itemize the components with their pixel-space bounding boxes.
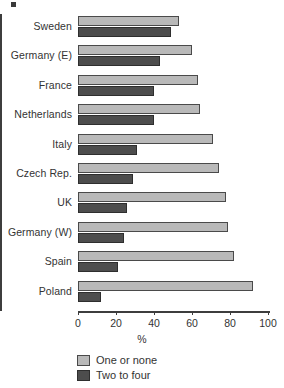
bar-poland-one-or-none xyxy=(78,281,253,291)
legend-swatch-light xyxy=(77,355,90,366)
bar-spain-two-to-four xyxy=(78,262,118,272)
y-axis-line xyxy=(0,14,2,311)
category-label-uk: UK xyxy=(57,197,72,208)
bar-netherlands-one-or-none xyxy=(78,104,200,114)
x-tick-60 xyxy=(192,311,193,315)
legend-swatch-dark xyxy=(77,370,90,381)
bar-netherlands-two-to-four xyxy=(78,115,154,125)
x-tick-label-20: 20 xyxy=(110,317,122,329)
bar-spain-one-or-none xyxy=(78,251,234,261)
bar-group xyxy=(78,222,268,243)
bar-uk-one-or-none xyxy=(78,192,226,202)
bar-chart: 020406080100 % One or none Two to four S… xyxy=(0,0,284,388)
bar-group xyxy=(78,163,268,184)
x-tick-20 xyxy=(116,311,117,315)
bar-group xyxy=(78,281,268,302)
x-tick-40 xyxy=(154,311,155,315)
bar-poland-two-to-four xyxy=(78,292,101,302)
category-label-italy: Italy xyxy=(52,139,72,150)
bar-czech-rep--one-or-none xyxy=(78,163,219,173)
bar-sweden-two-to-four xyxy=(78,27,171,37)
x-axis-line xyxy=(78,311,270,313)
legend-item-one-or-none: One or none xyxy=(77,353,157,367)
bar-germany-w--two-to-four xyxy=(78,233,124,243)
chart-legend: One or none Two to four xyxy=(77,353,157,383)
category-label-france: France xyxy=(39,80,72,91)
category-label-sweden: Sweden xyxy=(33,21,72,32)
x-tick-100 xyxy=(268,311,269,315)
bar-france-two-to-four xyxy=(78,86,154,96)
bar-group xyxy=(78,251,268,272)
bar-czech-rep--two-to-four xyxy=(78,174,133,184)
bar-group xyxy=(78,75,268,96)
legend-label-one-or-none: One or none xyxy=(96,354,157,366)
x-axis-title: % xyxy=(0,333,284,345)
scan-artifact xyxy=(11,2,16,7)
bar-group xyxy=(78,16,268,37)
x-tick-80 xyxy=(230,311,231,315)
legend-label-two-to-four: Two to four xyxy=(96,369,150,381)
x-tick-label-100: 100 xyxy=(259,317,277,329)
x-tick-label-60: 60 xyxy=(186,317,198,329)
bar-france-one-or-none xyxy=(78,75,198,85)
category-label-czech-rep-: Czech Rep. xyxy=(16,168,72,179)
x-tick-label-40: 40 xyxy=(148,317,160,329)
bar-italy-one-or-none xyxy=(78,134,213,144)
category-label-poland: Poland xyxy=(39,286,72,297)
bar-sweden-one-or-none xyxy=(78,16,179,26)
bar-germany-e--two-to-four xyxy=(78,56,160,66)
bar-uk-two-to-four xyxy=(78,203,127,213)
bar-group xyxy=(78,134,268,155)
x-tick-0 xyxy=(78,311,79,315)
bar-group xyxy=(78,45,268,66)
legend-item-two-to-four: Two to four xyxy=(77,368,157,382)
category-label-germany-e-: Germany (E) xyxy=(11,50,72,61)
category-label-netherlands: Netherlands xyxy=(14,109,72,120)
bar-germany-e--one-or-none xyxy=(78,45,192,55)
bar-italy-two-to-four xyxy=(78,145,137,155)
category-label-germany-w-: Germany (W) xyxy=(8,227,72,238)
plot-area xyxy=(78,14,268,311)
bar-group xyxy=(78,192,268,213)
bar-germany-w--one-or-none xyxy=(78,222,228,232)
x-tick-label-0: 0 xyxy=(75,317,81,329)
x-axis-title-text: % xyxy=(137,333,146,345)
category-label-spain: Spain xyxy=(45,256,72,267)
bar-group xyxy=(78,104,268,125)
x-tick-label-80: 80 xyxy=(224,317,236,329)
